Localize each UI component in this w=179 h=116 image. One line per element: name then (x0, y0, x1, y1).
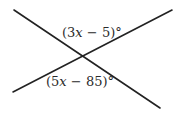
intersecting-lines-diagram: (3x − 5)° (5x − 85)° (0, 0, 179, 116)
bottom-angle-coefficient: 5 (51, 74, 59, 89)
top-angle-close-degree: )° (110, 25, 122, 40)
bottom-angle-constant: 85 (86, 74, 103, 89)
bottom-angle-operator: − (67, 74, 86, 89)
bottom-angle-close-degree: )° (102, 74, 114, 89)
top-angle-label: (3x − 5)° (62, 25, 122, 40)
top-angle-constant: 5 (102, 25, 110, 40)
bottom-angle-label: (5x − 85)° (46, 74, 114, 89)
top-angle-coefficient: 3 (67, 25, 75, 40)
top-angle-operator: − (83, 25, 102, 40)
